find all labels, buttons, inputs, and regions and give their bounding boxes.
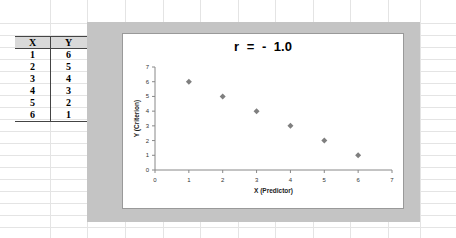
y-axis-title: Y (Criterion) xyxy=(133,100,141,137)
y-tick-label: 7 xyxy=(146,64,150,70)
x-tick-label: 4 xyxy=(289,177,293,183)
x-tick-label: 5 xyxy=(323,177,327,183)
scatter-plot: 0123456701234567X (Predictor)Y (Criterio… xyxy=(0,0,456,238)
x-tick-label: 0 xyxy=(153,177,157,183)
diamond-marker-icon xyxy=(186,79,192,85)
y-tick-label: 1 xyxy=(146,152,150,158)
diamond-marker-icon xyxy=(220,93,226,99)
diamond-marker-icon xyxy=(321,138,327,144)
diamond-marker-icon xyxy=(254,108,260,114)
x-tick-label: 2 xyxy=(221,177,225,183)
x-tick-label: 3 xyxy=(255,177,259,183)
x-tick-label: 1 xyxy=(187,177,191,183)
y-tick-label: 2 xyxy=(146,138,150,144)
diamond-marker-icon xyxy=(287,123,293,129)
y-tick-label: 4 xyxy=(146,108,150,114)
x-axis-title: X (Predictor) xyxy=(254,187,293,195)
y-tick-label: 3 xyxy=(146,123,150,129)
y-tick-label: 0 xyxy=(146,167,150,173)
x-tick-label: 7 xyxy=(390,177,394,183)
x-tick-label: 6 xyxy=(356,177,360,183)
diamond-marker-icon xyxy=(355,152,361,158)
y-tick-label: 6 xyxy=(146,79,150,85)
y-tick-label: 5 xyxy=(146,93,150,99)
